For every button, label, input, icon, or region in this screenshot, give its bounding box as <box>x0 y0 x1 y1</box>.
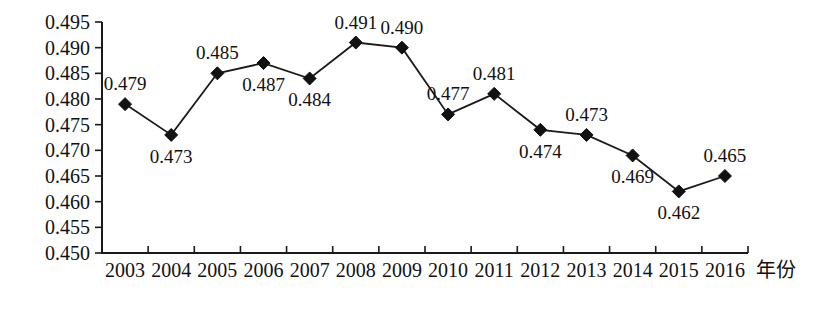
x-tick-label: 2013 <box>567 259 607 281</box>
data-point-label: 0.477 <box>427 83 470 104</box>
x-tick-label: 2003 <box>105 259 145 281</box>
data-point-marker <box>211 67 224 80</box>
data-point-label: 0.479 <box>104 73 147 94</box>
x-tick-label: 2012 <box>520 259 560 281</box>
data-point-label: 0.484 <box>288 89 331 110</box>
x-tick-label: 2016 <box>705 259 745 281</box>
y-tick-label: 0.490 <box>45 37 90 59</box>
data-point-label: 0.481 <box>473 63 516 84</box>
y-tick-label: 0.485 <box>45 62 90 84</box>
y-tick-label: 0.470 <box>45 139 90 161</box>
data-point-marker <box>119 98 132 111</box>
data-point-marker <box>580 128 593 141</box>
data-point-label: 0.490 <box>381 17 424 38</box>
x-tick-label: 2011 <box>475 259 514 281</box>
y-tick-label: 0.450 <box>45 242 90 264</box>
y-tick-label: 0.475 <box>45 114 90 136</box>
y-axis-ticks <box>95 22 102 253</box>
chart-page: 0.4950.4900.4850.4800.4750.4700.4650.460… <box>0 0 828 309</box>
data-point-marker <box>165 128 178 141</box>
y-tick-label: 0.480 <box>45 88 90 110</box>
data-point-marker <box>442 108 455 121</box>
data-point-label: 0.469 <box>611 166 654 187</box>
x-tick-label: 2009 <box>382 259 422 281</box>
data-point-label: 0.487 <box>242 74 285 95</box>
y-tick-label: 0.465 <box>45 165 90 187</box>
data-point-label: 0.473 <box>150 146 193 167</box>
x-tick-label: 2005 <box>197 259 237 281</box>
x-tick-label: 2015 <box>659 259 699 281</box>
x-axis-title: 年份 <box>756 259 796 281</box>
data-point-label: 0.485 <box>196 42 239 63</box>
x-tick-label: 2007 <box>290 259 330 281</box>
x-tick-label: 2006 <box>244 259 284 281</box>
line-chart: 0.4950.4900.4850.4800.4750.4700.4650.460… <box>0 0 828 309</box>
data-point-marker <box>257 57 270 70</box>
x-axis-tick-labels: 2003200420052006200720082009201020112012… <box>105 259 745 281</box>
x-axis-ticks <box>102 246 748 253</box>
y-tick-label: 0.455 <box>45 216 90 238</box>
data-point-marker <box>395 41 408 54</box>
data-point-label: 0.465 <box>704 145 747 166</box>
x-tick-label: 2010 <box>428 259 468 281</box>
x-tick-label: 2004 <box>151 259 191 281</box>
y-tick-label: 0.460 <box>45 191 90 213</box>
data-point-label: 0.474 <box>519 141 562 162</box>
data-point-label: 0.462 <box>657 202 700 223</box>
data-point-marker <box>718 170 731 183</box>
x-tick-label: 2014 <box>613 259 653 281</box>
data-point-label: 0.473 <box>565 104 608 125</box>
y-axis-tick-labels: 0.4950.4900.4850.4800.4750.4700.4650.460… <box>45 11 90 264</box>
y-tick-label: 0.495 <box>45 11 90 33</box>
data-point-label: 0.491 <box>334 12 377 33</box>
data-point-labels: 0.4790.4730.4850.4870.4840.4910.4900.477… <box>104 12 747 224</box>
x-tick-label: 2008 <box>336 259 376 281</box>
